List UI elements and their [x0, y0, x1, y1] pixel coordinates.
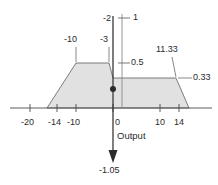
callout-label-0-33: 0.33 [193, 72, 211, 82]
y-axis-ticks [118, 18, 130, 63]
leader-11-33 [172, 57, 176, 77]
x-tick-label--14: -14 [48, 117, 61, 127]
plot-canvas [0, 0, 218, 185]
membership-area [47, 63, 189, 108]
x-tick-label--10: -10 [67, 117, 80, 127]
y-tick-label-0-5: 0.5 [131, 57, 144, 67]
membership-function-figure: 1 0.5 -10 -3 -2 11.33 0.33 -1.05 -20 -14… [0, 0, 218, 185]
x-tick-label--20: -20 [21, 117, 34, 127]
callout-label-neg2: -2 [103, 13, 111, 23]
callout-label-neg3: -3 [100, 34, 108, 44]
callout-label-11-33: 11.33 [156, 44, 178, 54]
x-axis-title: Output [117, 131, 146, 141]
x-tick-label-10: 10 [155, 117, 165, 127]
output-arrow-head [109, 150, 118, 163]
x-tick-label-0: 0 [115, 117, 120, 127]
callout-label-neg10: -10 [64, 34, 77, 44]
y-tick-label-1: 1 [133, 12, 138, 22]
x-tick-label-14: 14 [174, 117, 184, 127]
callout-label-neg1-05: -1.05 [99, 165, 120, 175]
centroid-dot [110, 86, 116, 92]
